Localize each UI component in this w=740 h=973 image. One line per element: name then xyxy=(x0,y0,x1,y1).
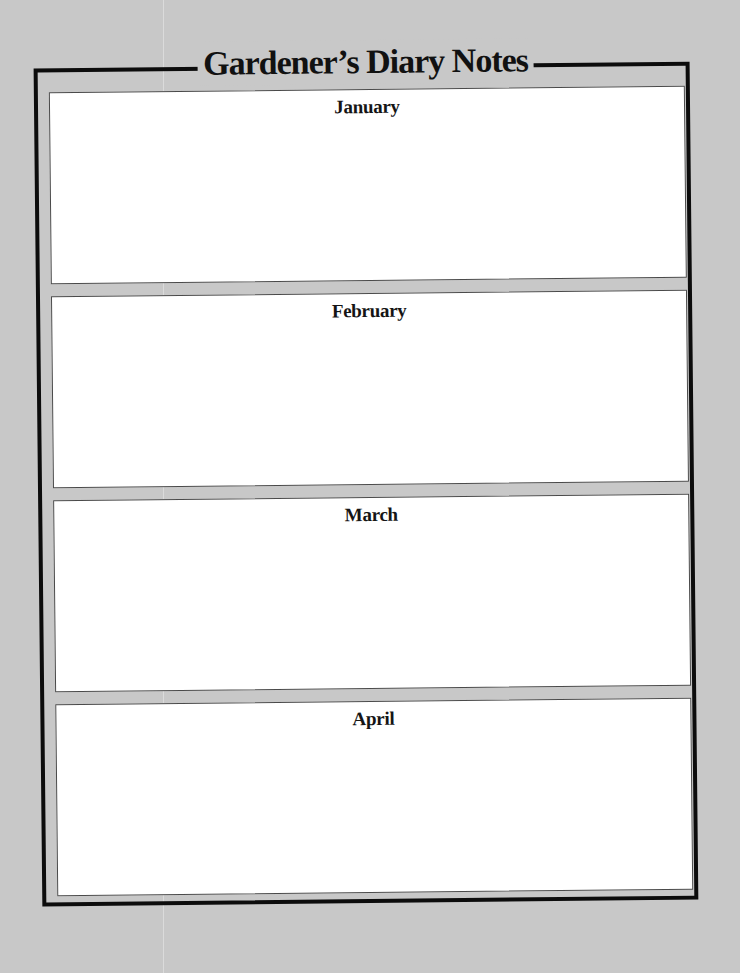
month-box-january: January xyxy=(49,86,687,285)
month-heading: February xyxy=(52,297,686,326)
month-boxes: January February March April xyxy=(49,86,694,909)
page-title: Gardener’s Diary Notes xyxy=(197,38,534,86)
month-box-march: March xyxy=(53,494,691,693)
notes-area-april[interactable] xyxy=(65,733,685,887)
month-heading: April xyxy=(56,705,690,734)
month-box-april: April xyxy=(55,698,693,897)
notes-area-march[interactable] xyxy=(62,529,682,683)
month-box-february: February xyxy=(51,290,689,489)
title-container: Gardener’s Diary Notes xyxy=(0,36,736,94)
notes-area-february[interactable] xyxy=(60,325,680,479)
month-heading: January xyxy=(50,93,684,122)
notes-area-january[interactable] xyxy=(58,121,678,275)
diary-page: Gardener’s Diary Notes January February … xyxy=(0,0,740,973)
month-heading: March xyxy=(54,501,688,530)
